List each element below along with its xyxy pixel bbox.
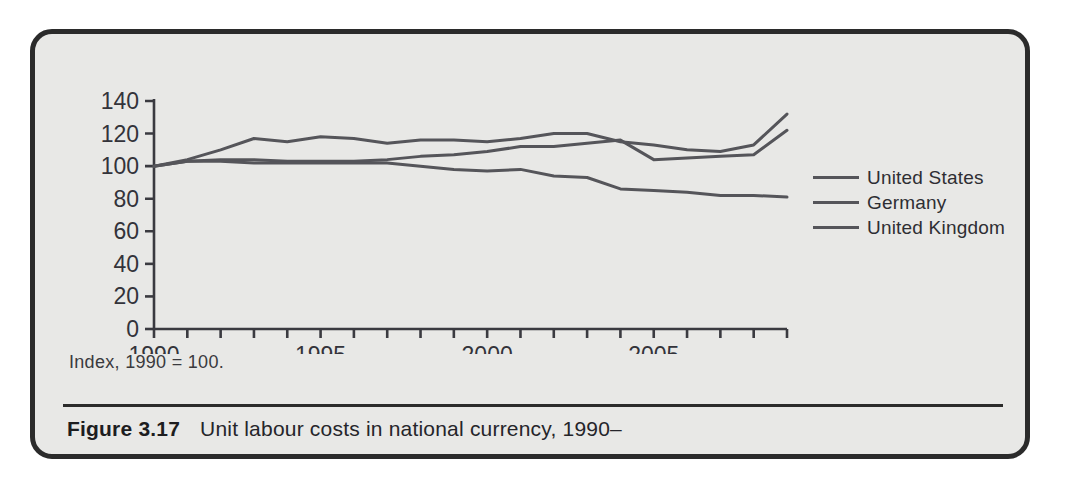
chart-axes	[145, 99, 787, 338]
x-tick-label: 2005	[628, 342, 679, 354]
y-tick-label: 120	[101, 121, 139, 147]
legend-line-swatch-uk	[813, 226, 859, 229]
figure-page: 020406080100120140 1990199520002005 Unit…	[0, 0, 1067, 488]
figure-caption: Figure 3.17 Unit labour costs in nationa…	[67, 417, 622, 441]
y-tick-label: 60	[113, 218, 139, 244]
legend-item-united-kingdom: United Kingdom	[813, 215, 1025, 240]
chart-series-lines	[154, 114, 787, 197]
legend-item-germany: Germany	[813, 190, 1025, 215]
y-tick-label: 20	[113, 283, 139, 309]
y-tick-label: 0	[126, 316, 139, 342]
series-line	[154, 161, 787, 197]
legend-label-uk: United Kingdom	[867, 217, 1005, 239]
legend-line-swatch-germany	[813, 201, 859, 204]
y-tick-label: 80	[113, 186, 139, 212]
chart-legend: United States Germany United Kingdom	[813, 165, 1025, 240]
legend-label-us: United States	[867, 167, 984, 189]
y-axis-tick-labels: 020406080100120140	[101, 88, 139, 342]
index-note: Index, 1990 = 100.	[69, 352, 224, 373]
series-line	[154, 130, 787, 166]
legend-line-swatch-us	[813, 176, 859, 179]
figure-frame: 020406080100120140 1990199520002005 Unit…	[30, 29, 1030, 459]
y-tick-label: 40	[113, 251, 139, 277]
caption-title: Unit labour costs in national currency, …	[200, 417, 622, 441]
chart-canvas: 020406080100120140 1990199520002005	[35, 34, 825, 354]
x-tick-label: 2000	[462, 342, 513, 354]
figure-inner: 020406080100120140 1990199520002005 Unit…	[35, 34, 1025, 454]
y-tick-label: 140	[101, 88, 139, 114]
legend-item-united-states: United States	[813, 165, 1025, 190]
caption-figure-number: Figure 3.17	[67, 417, 180, 441]
line-chart: 020406080100120140 1990199520002005	[35, 34, 825, 354]
y-tick-label: 100	[101, 153, 139, 179]
legend-label-germany: Germany	[867, 192, 947, 214]
x-tick-label: 1995	[295, 342, 346, 354]
caption-divider-rule	[63, 404, 1003, 407]
